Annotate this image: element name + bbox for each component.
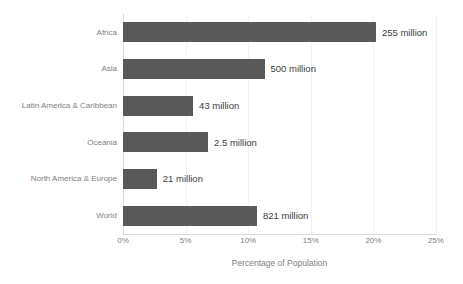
plot-area: 255 million 500 million 43 million 2.5 m… [123,14,436,234]
bar-oceania[interactable] [123,132,208,152]
bar-label-world: 821 million [263,211,308,221]
category-label-africa: Africa [97,14,117,51]
category-label-oceania: Oceania [87,124,117,161]
category-label-asia: Asia [101,51,117,88]
bar-world[interactable] [123,206,257,226]
category-axis-labels: Africa Asia Latin America & Caribbean Oc… [0,14,117,234]
bar-row: 500 million [123,51,436,88]
x-tick-15: 15% [303,236,319,245]
bar-north-america-europe[interactable] [123,169,157,189]
bar-row: 43 million [123,87,436,124]
x-tick-5: 5% [180,236,192,245]
bar-chart: Africa Asia Latin America & Caribbean Oc… [0,0,463,284]
x-tick-25: 25% [428,236,444,245]
x-tick-10: 10% [240,236,256,245]
bar-africa[interactable] [123,22,376,42]
bar-label-latin-america-caribbean: 43 million [199,101,239,111]
gridline-25pct [436,14,437,234]
bar-row: 2.5 million [123,124,436,161]
x-tick-20: 20% [365,236,381,245]
bar-label-north-america-europe: 21 million [163,174,203,184]
bar-latin-america-caribbean[interactable] [123,96,193,116]
x-axis-line [123,234,436,235]
bar-asia[interactable] [123,59,265,79]
category-label-world: World [96,197,117,234]
x-tick-0: 0% [117,236,129,245]
x-axis-title: Percentage of Population [123,258,436,268]
category-label-latin-america-caribbean: Latin America & Caribbean [22,87,117,124]
category-label-north-america-europe: North America & Europe [31,161,117,198]
bar-label-oceania: 2.5 million [214,138,257,148]
bar-row: 21 million [123,161,436,198]
bar-label-africa: 255 million [382,28,427,38]
bar-row: 821 million [123,197,436,234]
bar-label-asia: 500 million [271,64,316,74]
x-axis-tick-labels: 0% 5% 10% 15% 20% 25% [123,236,436,250]
bar-row: 255 million [123,14,436,51]
